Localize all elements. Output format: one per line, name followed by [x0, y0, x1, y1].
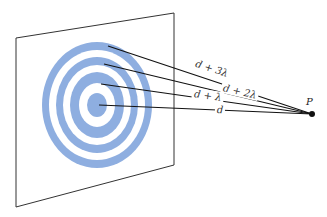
point-p-label: P: [305, 96, 313, 107]
label-d: d: [217, 104, 224, 115]
zone-plate-diagram: d + 3λ d + 2λ d + λ d P: [0, 0, 327, 217]
label-d-plus-3lambda: d + 3λ: [194, 58, 230, 79]
label-d-plus-2lambda: d + 2λ: [222, 82, 257, 100]
point-p: [309, 111, 315, 117]
zone-plate: [42, 42, 152, 168]
label-d-plus-lambda: d + λ: [194, 88, 223, 103]
